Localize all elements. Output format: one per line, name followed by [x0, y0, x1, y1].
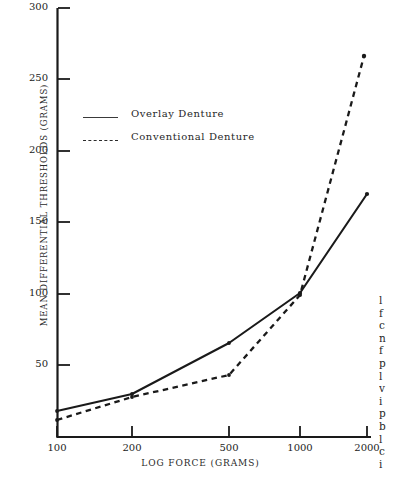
- x-tick-label-1000: 1000: [278, 442, 322, 453]
- legend-label-conventional-denture: Conventional Denture: [131, 131, 255, 142]
- x-axis-title: LOG FORCE (GRAMS): [0, 458, 401, 468]
- y-axis-title: MEAN DIFFERENTIAL THRESHOLDS (GRAMS): [39, 75, 49, 335]
- legend-item-conventional-denture: Conventional Denture: [83, 131, 283, 154]
- y-tick-label-300: 300: [14, 1, 48, 12]
- chart-plot-area: [0, 0, 401, 485]
- legend-swatch-solid-line-icon: [83, 117, 118, 118]
- page-edge-text-sliver: l f c n f p l v i p b l c i: [379, 294, 401, 470]
- legend-label-overlay-denture: Overlay Denture: [131, 108, 224, 119]
- y-tick-label-50: 50: [14, 358, 48, 369]
- x-tick-label-100: 100: [35, 442, 79, 453]
- legend-swatch-dashed-line-icon: [83, 140, 118, 141]
- y-axis-ticks: [58, 8, 70, 365]
- chart-figure: 300 250 200 150 100 50 100 200 500 1000 …: [0, 0, 401, 485]
- x-tick-label-500: 500: [207, 442, 251, 453]
- chart-legend: Overlay Denture Conventional Denture: [83, 108, 283, 154]
- legend-item-overlay-denture: Overlay Denture: [83, 108, 283, 131]
- x-axis-ticks: [57, 426, 367, 437]
- x-tick-label-200: 200: [110, 442, 154, 453]
